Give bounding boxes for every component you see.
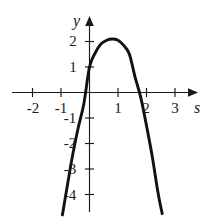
x-tick-label-3: 3 (168, 101, 182, 116)
y-tick-label--4: -4 (60, 188, 80, 203)
y-axis-label: y (73, 13, 80, 29)
y-tick-label--3: -3 (60, 162, 80, 177)
x-tick-label--1: -1 (50, 101, 72, 116)
x-axis-arrow-icon (188, 88, 198, 97)
y-tick-label-1: 1 (66, 60, 80, 75)
y-tick-label-2: 2 (66, 34, 80, 49)
x-axis-label: s (194, 100, 200, 116)
y-axis-arrow-icon (85, 16, 94, 26)
x-tick-label-2: 2 (139, 101, 153, 116)
x-tick-label-1: 1 (111, 101, 125, 116)
graph-figure: 2 1 -1 -2 -3 -4 -2 -1 1 2 3 y s (0, 0, 212, 223)
x-tick-label--2: -2 (22, 101, 44, 116)
y-tick-label--2: -2 (60, 136, 80, 151)
